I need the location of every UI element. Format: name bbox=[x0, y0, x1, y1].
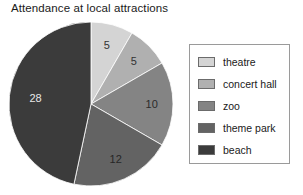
pie-slice-value-beach: 28 bbox=[29, 92, 41, 104]
pie-slice-beach bbox=[9, 22, 91, 184]
pie-slice-value-theme-park: 12 bbox=[110, 153, 122, 165]
legend-item-theme-park: theme park bbox=[190, 117, 289, 139]
pie-slice-value-zoo: 10 bbox=[146, 98, 158, 110]
pie-slice-value-theatre: 5 bbox=[104, 39, 110, 51]
pie-svg: 55101228 bbox=[0, 14, 182, 195]
chart-title: Attendance at local attractions bbox=[11, 2, 168, 14]
legend-item-zoo: zoo bbox=[190, 95, 289, 117]
pie-chart-figure: Attendance at local attractions 55101228… bbox=[0, 0, 303, 195]
legend-label-zoo: zoo bbox=[223, 101, 240, 112]
legend-swatch-concert-hall bbox=[198, 79, 215, 89]
chart-legend: theatre concert hall zoo theme park beac… bbox=[189, 44, 290, 164]
pie-plot-area: 55101228 bbox=[0, 14, 182, 195]
legend-swatch-theme-park bbox=[198, 123, 215, 133]
legend-label-theme-park: theme park bbox=[223, 123, 276, 134]
legend-swatch-beach bbox=[198, 145, 215, 155]
legend-label-concert-hall: concert hall bbox=[223, 79, 277, 90]
legend-swatch-zoo bbox=[198, 101, 215, 111]
legend-item-beach: beach bbox=[190, 139, 289, 161]
pie-slice-value-concert-hall: 5 bbox=[131, 55, 137, 67]
legend-item-theatre: theatre bbox=[190, 51, 289, 73]
legend-label-theatre: theatre bbox=[223, 57, 256, 68]
legend-item-concert-hall: concert hall bbox=[190, 73, 289, 95]
legend-label-beach: beach bbox=[223, 145, 252, 156]
legend-swatch-theatre bbox=[198, 57, 215, 67]
